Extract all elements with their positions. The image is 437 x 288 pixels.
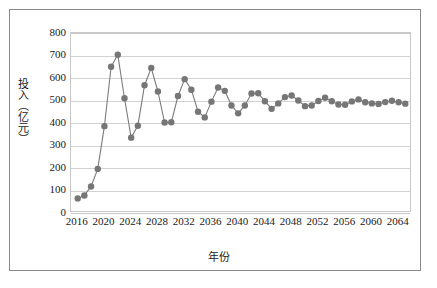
data-point-marker xyxy=(295,97,301,103)
data-point-marker xyxy=(202,114,208,120)
y-tick-label: 700 xyxy=(28,49,66,60)
y-tick-label: 100 xyxy=(28,184,66,195)
x-tick-label: 2040 xyxy=(226,215,248,228)
data-point-marker xyxy=(148,65,154,71)
data-point-marker xyxy=(128,134,134,140)
y-tick-label: 200 xyxy=(28,162,66,173)
y-tick-label: 0 xyxy=(28,207,66,218)
x-tick-label: 2064 xyxy=(387,215,409,228)
data-point-marker xyxy=(342,102,348,108)
data-point-marker xyxy=(275,100,281,106)
x-tick-label: 2044 xyxy=(253,215,275,228)
data-point-marker xyxy=(215,84,221,90)
data-point-marker xyxy=(81,192,87,198)
x-tick-label: 2016 xyxy=(66,215,88,228)
x-tick-label: 2032 xyxy=(173,215,195,228)
data-point-marker xyxy=(242,102,248,108)
data-point-marker xyxy=(155,88,161,94)
data-point-marker xyxy=(248,90,254,96)
data-point-marker xyxy=(135,123,141,129)
data-point-marker xyxy=(255,90,261,96)
data-point-marker xyxy=(322,95,328,101)
data-point-marker xyxy=(302,103,308,109)
series-line-investment xyxy=(71,33,412,213)
data-point-marker xyxy=(115,52,121,58)
data-point-marker xyxy=(101,123,107,129)
data-point-marker xyxy=(121,95,127,101)
data-point-marker xyxy=(161,119,167,125)
data-point-marker xyxy=(382,99,388,105)
data-point-marker xyxy=(389,98,395,104)
data-point-marker xyxy=(262,98,268,104)
data-point-marker xyxy=(188,87,194,93)
data-point-marker xyxy=(315,98,321,104)
y-tick-label: 300 xyxy=(28,139,66,150)
data-point-marker xyxy=(88,183,94,189)
x-tick-label: 2020 xyxy=(92,215,114,228)
y-tick-label: 500 xyxy=(28,94,66,105)
data-point-marker xyxy=(375,101,381,107)
data-point-marker xyxy=(95,166,101,172)
data-point-marker xyxy=(309,102,315,108)
x-tick-label: 2060 xyxy=(360,215,382,228)
data-point-marker xyxy=(74,195,80,201)
plot-area xyxy=(70,32,411,212)
x-tick-label: 2052 xyxy=(306,215,328,228)
data-point-marker xyxy=(329,98,335,104)
x-tick-label: 2056 xyxy=(333,215,355,228)
data-point-marker xyxy=(268,106,274,112)
data-point-marker xyxy=(175,93,181,99)
y-axis-tick-labels: 0100200300400500600700800 xyxy=(24,32,66,212)
series-line xyxy=(78,55,406,199)
gridline-y xyxy=(71,213,410,214)
x-tick-label: 2036 xyxy=(199,215,221,228)
chart-figure: 投入（亿元） 0100200300400500600700800 2016202… xyxy=(0,0,437,288)
data-point-marker xyxy=(362,99,368,105)
data-point-marker xyxy=(108,64,114,70)
data-point-marker xyxy=(181,76,187,82)
data-point-marker xyxy=(282,94,288,100)
y-tick-label: 600 xyxy=(28,72,66,83)
data-point-marker xyxy=(349,98,355,104)
data-point-marker xyxy=(222,88,228,94)
data-point-marker xyxy=(335,101,341,107)
data-point-marker xyxy=(195,109,201,115)
data-point-marker xyxy=(235,110,241,116)
data-point-marker xyxy=(228,102,234,108)
data-point-marker xyxy=(402,100,408,106)
y-tick-label: 800 xyxy=(28,27,66,38)
data-point-marker xyxy=(288,92,294,98)
x-tick-label: 2028 xyxy=(146,215,168,228)
data-point-marker xyxy=(369,100,375,106)
x-axis-title: 年份 xyxy=(0,248,437,264)
data-point-marker xyxy=(141,82,147,88)
x-axis-tick-labels: 2016202020242028203220362040204420482052… xyxy=(70,215,411,231)
x-tick-label: 2048 xyxy=(280,215,302,228)
data-point-marker xyxy=(395,99,401,105)
x-tick-label: 2024 xyxy=(119,215,141,228)
y-tick-label: 400 xyxy=(28,117,66,128)
data-point-marker xyxy=(208,98,214,104)
data-point-marker xyxy=(168,119,174,125)
data-point-marker xyxy=(355,96,361,102)
